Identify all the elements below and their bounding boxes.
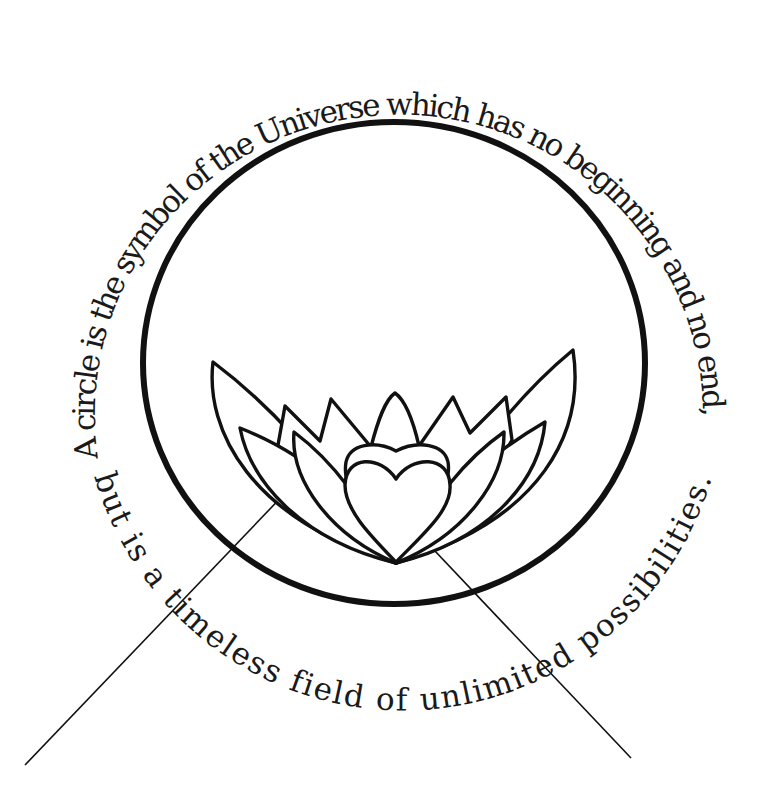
left-pointer-line: [25, 488, 290, 765]
illustration-svg: A circle is the symbol of the Universe w…: [0, 0, 761, 792]
lotus-flower: [212, 350, 575, 563]
illustration: A circle is the symbol of the Universe w…: [0, 0, 761, 792]
